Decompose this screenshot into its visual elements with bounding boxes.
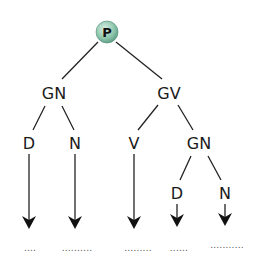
edge-p-gv <box>116 42 162 79</box>
node-d: D <box>23 134 35 153</box>
edge-gn2-d <box>180 156 191 180</box>
edge-gn2-n <box>208 156 221 180</box>
blank-1: .... <box>24 243 36 253</box>
blank-4: ...... <box>170 243 188 253</box>
arrow-v <box>127 154 141 229</box>
blank-2: .......... <box>62 243 93 253</box>
edge-gv-v <box>138 105 158 130</box>
node-d-object: D <box>171 184 183 203</box>
arrow-d <box>22 154 36 229</box>
blank-3: ......... <box>124 243 152 253</box>
arrow-n-object <box>218 204 232 226</box>
edge-gn-d <box>33 106 45 130</box>
edge-gn-n <box>62 106 74 130</box>
arrow-d-object <box>170 204 184 227</box>
node-gn: GN <box>42 84 66 103</box>
arrow-n <box>68 154 82 229</box>
node-v: V <box>129 134 140 153</box>
blank-5: ........... <box>210 240 244 250</box>
root-label: P <box>102 25 112 40</box>
node-n: N <box>69 134 81 153</box>
root-node: P <box>96 21 118 43</box>
edge-p-gn <box>62 42 98 79</box>
edge-gv-gn <box>178 105 193 130</box>
node-gv: GV <box>157 84 180 103</box>
node-gn-object: GN <box>187 134 211 153</box>
syntax-tree-diagram: P GN GV D N V GN D N .... .......... ...… <box>0 0 259 266</box>
node-n-object: N <box>219 184 231 203</box>
